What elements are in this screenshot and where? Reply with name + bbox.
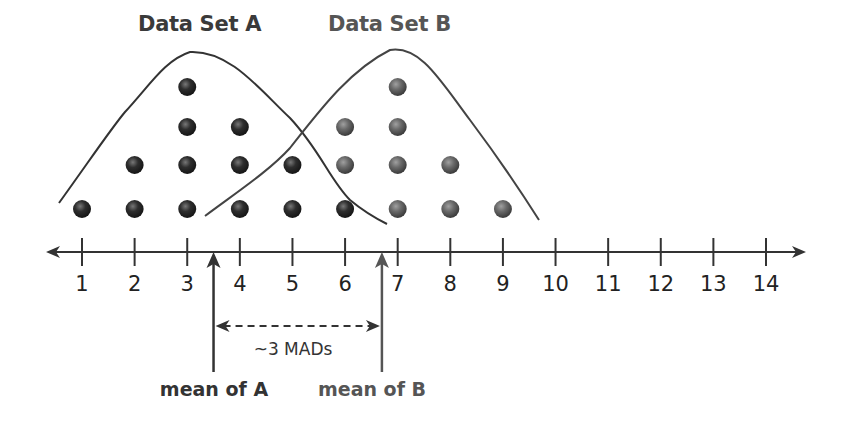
dot-data-set-a	[178, 156, 196, 174]
dot-data-set-a	[283, 156, 301, 174]
tick-label: 1	[75, 272, 88, 296]
tick-label: 14	[753, 272, 780, 296]
curve-data-set-b	[205, 50, 539, 220]
plot-area	[0, 0, 847, 421]
dot-data-set-b	[389, 156, 407, 174]
dot-data-set-b	[336, 156, 354, 174]
dot-data-set-a	[231, 156, 249, 174]
mad-label: ~3 MADs	[254, 339, 333, 359]
dot-data-set-a	[336, 200, 354, 218]
dot-data-set-b	[389, 78, 407, 96]
dot-data-set-a	[126, 156, 144, 174]
dot-data-set-b	[494, 200, 512, 218]
tick-label: 9	[496, 272, 509, 296]
dot-data-set-a	[231, 118, 249, 136]
tick-label: 13	[700, 272, 727, 296]
tick-label: 12	[647, 272, 674, 296]
dot-data-set-a	[126, 200, 144, 218]
dot-data-set-b	[389, 200, 407, 218]
tick-label: 6	[338, 272, 351, 296]
dot-data-set-b	[441, 200, 459, 218]
curve-data-set-a	[59, 52, 387, 224]
dot-data-set-b	[389, 118, 407, 136]
dot-data-set-b	[441, 156, 459, 174]
tick-label: 4	[233, 272, 246, 296]
tick-label: 10	[542, 272, 569, 296]
mean-of-a-label: mean of A	[160, 378, 268, 400]
dot-data-set-a	[73, 200, 91, 218]
tick-label: 7	[391, 272, 404, 296]
tick-label: 11	[595, 272, 622, 296]
tick-label: 3	[181, 272, 194, 296]
dot-data-set-a	[178, 118, 196, 136]
dot-data-set-a	[283, 200, 301, 218]
dot-data-set-a	[231, 200, 249, 218]
dot-data-set-b	[336, 118, 354, 136]
tick-label: 5	[286, 272, 299, 296]
dot-data-set-a	[178, 78, 196, 96]
mean-of-b-label: mean of B	[318, 378, 426, 400]
tick-label: 8	[444, 272, 457, 296]
tick-label: 2	[128, 272, 141, 296]
dot-data-set-a	[178, 200, 196, 218]
dot-plot-figure: Data Set A Data Set B 123456789101112131…	[0, 0, 847, 421]
